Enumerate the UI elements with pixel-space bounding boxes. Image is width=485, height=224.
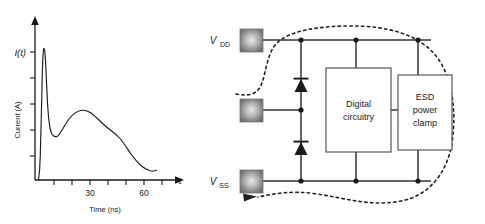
junction-vss-clamp xyxy=(415,178,420,183)
x-axis-ticks xyxy=(54,180,162,185)
junction-vdd-diode xyxy=(298,37,303,42)
figure-container: 30 60 I(t) t Time (ns) Current (A) xyxy=(0,0,485,224)
hbm-current-chart: 30 60 I(t) t Time (ns) Current (A) xyxy=(0,0,200,224)
circuit-svg: Digital circuitry ESD power clamp xyxy=(195,0,485,224)
clamp-block-label-line1: ESD xyxy=(416,92,435,102)
x-tick-label-60: 60 xyxy=(139,188,149,198)
vss-rail-label: V SS xyxy=(210,176,229,189)
y-axis-title: Current (A) xyxy=(13,101,22,139)
vdd-pad[interactable] xyxy=(240,29,263,52)
y-axis xyxy=(31,16,39,180)
x-axis-variable-label: t xyxy=(179,175,182,186)
junction-vdd-clamp xyxy=(415,37,420,42)
y-axis-variable-label: I(t) xyxy=(14,47,26,58)
io-pad[interactable] xyxy=(240,99,263,122)
x-tick-label-30: 30 xyxy=(85,188,95,198)
clamp-block-label-line3: clamp xyxy=(413,118,437,128)
clamp-block-label-line2: power xyxy=(413,105,438,115)
hbm-current-curve xyxy=(39,49,157,181)
vss-label-main: V xyxy=(210,176,218,187)
vdd-label-sub: DD xyxy=(220,41,230,48)
esd-current-arrowhead xyxy=(243,194,257,202)
esd-power-clamp-block[interactable]: ESD power clamp xyxy=(398,75,452,150)
vdd-label-main: V xyxy=(210,35,218,46)
digital-circuitry-block[interactable]: Digital circuitry xyxy=(326,68,391,152)
junction-vdd-digital xyxy=(353,37,358,42)
digital-block-label-line2: circuitry xyxy=(343,112,374,122)
x-axis-title: Time (ns) xyxy=(89,205,121,214)
chart-svg: 30 60 I(t) t Time (ns) Current (A) xyxy=(0,0,200,224)
diode-up-top xyxy=(294,79,309,92)
vss-pad[interactable] xyxy=(240,170,263,193)
junction-vss-digital xyxy=(353,178,358,183)
esd-circuit-diagram: Digital circuitry ESD power clamp xyxy=(195,0,485,224)
vdd-rail-label: V DD xyxy=(210,35,230,48)
y-axis-ticks xyxy=(30,52,35,156)
junction-vss-diode xyxy=(298,178,303,183)
digital-block-label-line1: Digital xyxy=(346,99,371,109)
diode-up-bottom xyxy=(294,142,309,155)
vss-label-sub: SS xyxy=(219,182,229,189)
junction-io-diode xyxy=(298,107,303,112)
